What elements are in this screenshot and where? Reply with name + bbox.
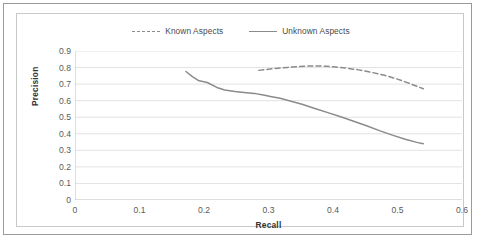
gridlines (75, 51, 462, 183)
x-tick-label: 0.5 (392, 205, 404, 215)
y-tick-label: 0 (66, 195, 71, 205)
legend-swatch-dashed-icon (132, 31, 160, 32)
plot-svg (75, 51, 462, 200)
chart-legend: Known Aspects Unknown Aspects (17, 26, 465, 36)
figure-frame: Known Aspects Unknown Aspects Precision … (3, 3, 472, 235)
x-tick-label: 0.6 (456, 205, 468, 215)
legend-label-known-aspects: Known Aspects (165, 26, 223, 36)
y-tick-label: 0.9 (59, 46, 71, 56)
legend-label-unknown-aspects: Unknown Aspects (282, 26, 349, 36)
chart-frame: Known Aspects Unknown Aspects Precision … (16, 13, 464, 227)
legend-entry-known-aspects[interactable]: Known Aspects (132, 26, 223, 36)
y-tick-label: 0.3 (59, 145, 71, 155)
y-axis-tick-labels: 00.10.20.30.40.50.60.70.80.9 (39, 51, 71, 200)
x-tick-label: 0 (73, 205, 78, 215)
y-tick-label: 0.5 (59, 112, 71, 122)
legend-swatch-solid-icon (249, 31, 277, 32)
y-tick-label: 0.1 (59, 178, 71, 188)
axis-lines (75, 51, 462, 200)
y-tick-label: 0.7 (59, 79, 71, 89)
y-tick-label: 0.2 (59, 162, 71, 172)
plot-area (75, 51, 462, 200)
y-tick-label: 0.8 (59, 63, 71, 73)
x-axis-title: Recall (75, 220, 462, 230)
y-tick-label: 0.6 (59, 96, 71, 106)
x-tick-label: 0.1 (134, 205, 146, 215)
x-tick-label: 0.4 (327, 205, 339, 215)
x-axis-tick-labels: 00.10.20.30.40.50.6 (75, 205, 462, 219)
series-line-known-aspects (259, 66, 423, 89)
x-tick-label: 0.3 (263, 205, 275, 215)
y-tick-label: 0.4 (59, 129, 71, 139)
series-line-unknown-aspects (186, 72, 423, 144)
series-lines (186, 66, 423, 144)
legend-entry-unknown-aspects[interactable]: Unknown Aspects (249, 26, 349, 36)
x-tick-label: 0.2 (198, 205, 210, 215)
